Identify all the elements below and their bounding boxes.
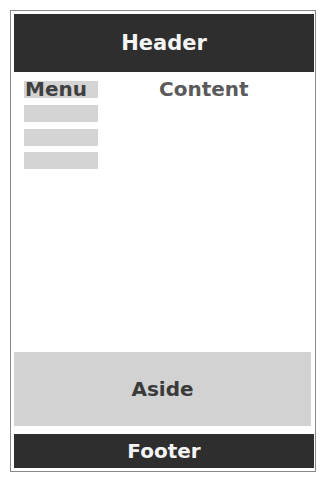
menu-item-2 xyxy=(24,105,98,122)
header-region: Header xyxy=(14,14,314,72)
menu-item-4 xyxy=(24,152,98,169)
footer-label: Footer xyxy=(127,439,200,463)
menu-item-3 xyxy=(24,129,98,146)
aside-label: Aside xyxy=(131,377,193,401)
menu-label: Menu xyxy=(25,78,87,100)
aside-region: Aside xyxy=(14,352,311,426)
footer-region: Footer xyxy=(14,434,314,468)
header-label: Header xyxy=(121,31,207,55)
content-label: Content xyxy=(159,78,249,100)
